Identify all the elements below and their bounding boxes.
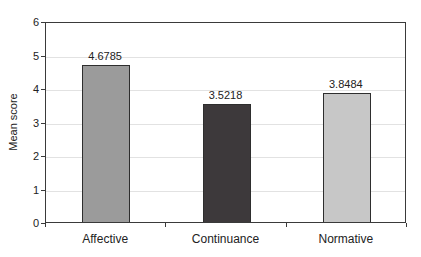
y-tick-mark [41,89,45,90]
y-tick-label: 2 [25,150,39,162]
x-tick-mark [165,223,166,227]
x-tick-mark [286,223,287,227]
x-tick-mark [45,223,46,227]
bar-value-label: 4.6785 [88,50,122,62]
y-tick-mark [41,156,45,157]
y-axis-title: Mean score [7,93,19,150]
category-label-normative: Normative [318,232,373,246]
y-tick-mark [41,22,45,23]
bar-value-label: 3.8484 [329,78,363,90]
y-tick-mark [41,190,45,191]
x-tick-mark [406,223,407,227]
bar-normative [323,93,371,222]
bar-value-label: 3.5218 [209,89,243,101]
y-tick-label: 3 [25,117,39,129]
y-tick-label: 4 [25,83,39,95]
y-tick-label: 1 [25,184,39,196]
y-tick-label: 5 [25,50,39,62]
category-label-continuance: Continuance [192,232,259,246]
y-tick-label: 6 [25,16,39,28]
category-label-affective: Affective [82,232,128,246]
bar-chart-figure: Mean score 4.6785Affective3.5218Continua… [0,0,421,257]
bar-continuance [203,104,251,222]
y-tick-mark [41,56,45,57]
y-tick-label: 0 [25,217,39,229]
y-tick-mark [41,123,45,124]
bar-affective [82,65,130,222]
